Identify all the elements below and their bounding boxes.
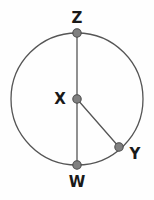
point-dot-w	[73, 161, 81, 169]
point-label-w: W	[69, 173, 86, 191]
geometry-figure: Z X Y W	[0, 0, 154, 200]
point-dot-z	[73, 29, 81, 37]
segment-radius-xy	[77, 99, 119, 147]
point-label-y: Y	[129, 145, 142, 163]
point-label-x: X	[54, 90, 66, 108]
geometry-canvas: Z X Y W	[0, 0, 154, 200]
point-dot-y	[115, 143, 123, 151]
point-label-z: Z	[72, 9, 83, 27]
point-dot-x	[73, 95, 81, 103]
